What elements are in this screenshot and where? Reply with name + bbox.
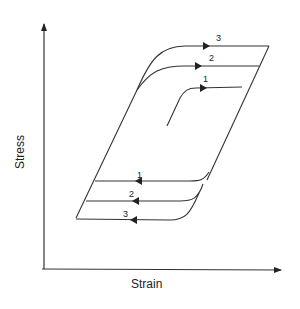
- lower-label-3: 3: [123, 209, 128, 219]
- lower-label-2: 2: [129, 189, 134, 199]
- upper-label-1: 1: [203, 74, 208, 84]
- x-axis-label: Strain: [131, 277, 162, 291]
- left-envelope: [76, 90, 137, 218]
- loading-curve-2: [137, 66, 259, 90]
- arrow-3-icon: [203, 42, 210, 50]
- loading-curve-1: [167, 87, 242, 126]
- x-axis: [42, 269, 281, 270]
- stress-strain-diagram: 3 2 1 1 2 3: [0, 0, 300, 309]
- lower-label-1: 1: [137, 170, 142, 180]
- arrow-lower-3-icon: [130, 216, 137, 224]
- upper-label-3: 3: [216, 33, 221, 43]
- unloading-curve-1: [95, 172, 209, 181]
- unloading-curve-2: [86, 184, 203, 201]
- unloading-curve-3: [76, 193, 199, 220]
- y-axis-label: Stress: [13, 132, 27, 172]
- arrow-1-icon: [200, 84, 207, 92]
- arrow-2-icon: [195, 62, 202, 70]
- upper-label-2: 2: [209, 53, 214, 63]
